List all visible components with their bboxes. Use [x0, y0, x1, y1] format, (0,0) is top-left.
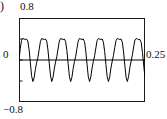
panel-label: ): [0, 1, 4, 12]
y-axis-zero-label: 0: [3, 49, 9, 60]
figure-panel: ) 0.8 0 −0.8 0.25: [0, 0, 167, 119]
y-axis-min-label: −0.8: [3, 104, 23, 115]
plot-area: [19, 18, 145, 102]
x-axis-max-label: 0.25: [146, 49, 165, 60]
y-axis-max-label: 0.8: [20, 1, 34, 12]
